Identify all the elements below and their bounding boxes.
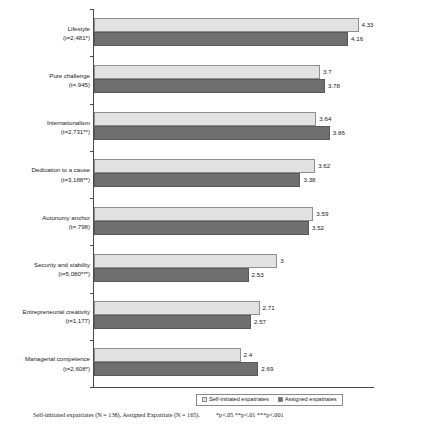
bar-value-label: 3.62: [318, 163, 330, 169]
bar-group: 3.86: [94, 126, 375, 140]
bar-value-label: 3.7: [323, 69, 332, 75]
category-label: Lifestyle(t=2,481*): [0, 24, 90, 42]
category-tstat: (t=5,080***): [0, 269, 90, 278]
category-label: Pure challenge(t=.945): [0, 71, 90, 89]
bar-value-label: 2.69: [261, 366, 273, 372]
chart-category-row: Managerial competence(t=2,608*)2.42.69: [94, 340, 374, 387]
bar-group: 3.7: [94, 65, 375, 79]
y-axis-tick: [90, 245, 94, 246]
bar-assigned: [94, 173, 300, 187]
bar-group: 3.52: [94, 221, 375, 235]
y-axis-tick: [90, 293, 94, 294]
bar-self-initiated: [94, 207, 313, 221]
bar-value-label: 3.86: [333, 130, 345, 136]
bar-assigned: [94, 79, 325, 93]
category-name: Internationalism: [0, 118, 90, 127]
bar-self-initiated: [94, 112, 316, 126]
chart-category-row: Autonomy anchor(t=.798)3.593.52: [94, 198, 374, 245]
bar-group: 3: [94, 254, 375, 268]
bar-value-label: 2.4: [244, 352, 253, 358]
plot-area: Lifestyle(t=2,481*)4.334.16Pure challeng…: [93, 9, 374, 387]
y-axis-tick: [90, 340, 94, 341]
bar-group: 3.62: [94, 159, 375, 173]
chart-category-row: Internationalism(t=2,731**)3.643.86: [94, 104, 374, 151]
bar-self-initiated: [94, 18, 359, 32]
bar-value-label: 2.53: [252, 272, 264, 278]
bar-group: 3.38: [94, 173, 375, 187]
bar-assigned: [94, 32, 348, 46]
category-tstat: (t=1,177): [0, 316, 90, 325]
bar-value-label: 3.38: [303, 177, 315, 183]
bar-group: 3.59: [94, 207, 375, 221]
category-tstat: (t=2,481*): [0, 33, 90, 42]
category-label: Dedication to a cause(t=3,188**): [0, 165, 90, 183]
category-name: Security and stability: [0, 260, 90, 269]
bar-value-label: 3: [280, 258, 283, 264]
category-tstat: (t=.945): [0, 80, 90, 89]
legend-item-assigned: Assigned expatriates: [278, 397, 337, 403]
bar-self-initiated: [94, 65, 320, 79]
category-tstat: (t=3,188**): [0, 175, 90, 184]
legend-swatch-self-initiated: [202, 397, 207, 402]
chart-legend: Self-initiated expatriates Assigned expa…: [196, 394, 343, 406]
bar-assigned: [94, 315, 251, 329]
category-name: Managerial competence: [0, 354, 90, 363]
bar-group: 2.57: [94, 315, 375, 329]
bar-assigned: [94, 126, 330, 140]
bar-assigned: [94, 362, 258, 376]
chart-category-row: Lifestyle(t=2,481*)4.334.16: [94, 9, 374, 56]
footnote-sample: Self-initiated expatriates (N = 138), As…: [33, 411, 200, 418]
footnote-significance: *p<.05 **p<.01 ***p<.001: [216, 411, 284, 418]
chart-category-row: Entrepreneurial creativity(t=1,177)2.712…: [94, 293, 374, 340]
category-tstat: (t=2,731**): [0, 127, 90, 136]
bar-value-label: 3.78: [328, 83, 340, 89]
category-name: Dedication to a cause: [0, 165, 90, 174]
bar-group: 2.71: [94, 301, 375, 315]
legend-label-assigned: Assigned expatriates: [285, 397, 337, 403]
legend-item-self-initiated: Self-initiated expatriates: [202, 397, 269, 403]
bar-group: 2.53: [94, 268, 375, 282]
bar-group: 2.69: [94, 362, 375, 376]
category-tstat: (t=2,608*): [0, 364, 90, 373]
category-label: Internationalism(t=2,731**): [0, 118, 90, 136]
legend-label-self-initiated: Self-initiated expatriates: [209, 397, 269, 403]
category-label: Entrepreneurial creativity(t=1,177): [0, 307, 90, 325]
bar-assigned: [94, 268, 249, 282]
chart-category-row: Dedication to a cause(t=3,188**)3.623.38: [94, 151, 374, 198]
bar-assigned: [94, 221, 309, 235]
bar-self-initiated: [94, 301, 260, 315]
bar-self-initiated: [94, 254, 277, 268]
bar-self-initiated: [94, 348, 241, 362]
legend-swatch-assigned: [278, 397, 283, 402]
bar-value-label: 3.52: [312, 225, 324, 231]
category-name: Autonomy anchor: [0, 213, 90, 222]
category-label: Autonomy anchor(t=.798): [0, 213, 90, 231]
category-label: Managerial competence(t=2,608*): [0, 354, 90, 372]
y-axis-tick: [90, 104, 94, 105]
category-label: Security and stability(t=5,080***): [0, 260, 90, 278]
category-name: Pure challenge: [0, 71, 90, 80]
bar-chart: Lifestyle(t=2,481*)4.334.16Pure challeng…: [0, 0, 427, 430]
bar-value-label: 3.64: [319, 116, 331, 122]
bar-group: 2.4: [94, 348, 375, 362]
chart-category-row: Pure challenge(t=.945)3.73.78: [94, 56, 374, 103]
bar-group: 3.78: [94, 79, 375, 93]
bar-group: 3.64: [94, 112, 375, 126]
bar-self-initiated: [94, 159, 315, 173]
bar-group: 4.33: [94, 18, 375, 32]
bar-value-label: 2.57: [254, 319, 266, 325]
category-name: Entrepreneurial creativity: [0, 307, 90, 316]
bar-value-label: 2.71: [263, 305, 275, 311]
y-axis-tick: [90, 9, 94, 10]
y-axis-tick: [90, 56, 94, 57]
x-axis-line: [93, 387, 374, 388]
chart-category-row: Security and stability(t=5,080***)32.53: [94, 245, 374, 292]
bar-value-label: 3.59: [316, 211, 328, 217]
bar-value-label: 4.16: [351, 36, 363, 42]
chart-footnote: Self-initiated expatriates (N = 138), As…: [33, 411, 284, 419]
bar-value-label: 4.33: [362, 22, 374, 28]
y-axis-tick: [90, 198, 94, 199]
bar-group: 4.16: [94, 32, 375, 46]
category-name: Lifestyle: [0, 24, 90, 33]
category-tstat: (t=.798): [0, 222, 90, 231]
